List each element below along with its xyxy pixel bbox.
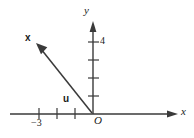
vector-label-u: u — [63, 94, 69, 104]
x-axis-arrowhead — [167, 111, 178, 118]
origin-label: O — [94, 115, 102, 126]
x-axis-label: x — [181, 106, 186, 117]
y-tick-label-4: 4 — [100, 36, 105, 46]
vector-label-x: x — [25, 33, 31, 43]
y-axis-label: y — [84, 5, 89, 16]
vector-x-arrowhead — [36, 43, 47, 54]
x-tick-label-neg3: −3 — [31, 118, 42, 128]
figure-canvas: y x O 4 −3 x u — [0, 0, 194, 138]
y-axis-arrowhead — [90, 21, 97, 32]
